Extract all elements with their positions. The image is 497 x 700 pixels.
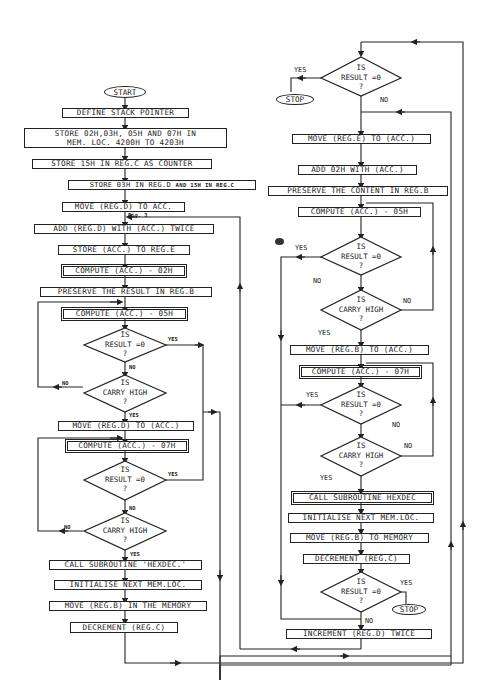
decision-line: RESULT =0 bbox=[331, 400, 391, 410]
step-label: STORE (ACC.) TO REG.E bbox=[73, 245, 175, 255]
no-label: NO bbox=[313, 277, 321, 285]
step-label: MOVE (REG.E) TO (ACC.) bbox=[308, 134, 415, 144]
step-label: MOVE (REG.B) IN THE MEMORY bbox=[65, 601, 192, 611]
step-label: CALL SUBROUTINE 'HEXDEC.' bbox=[65, 560, 187, 570]
no-label: NO bbox=[365, 617, 373, 625]
decision-carry-high-2: IS CARRY HIGH ? bbox=[90, 516, 160, 545]
decision-line: ? bbox=[331, 596, 391, 606]
decision-result-zero-r2: IS RESULT =0 ? bbox=[331, 242, 391, 271]
yes-label: YES bbox=[168, 471, 178, 477]
step-label: MOVE (REG.D) TO ACC. bbox=[75, 202, 172, 212]
step-label-line2: MEM. LOC. 4200H TO 4203H bbox=[67, 138, 184, 147]
step-init-next-mem-r: INITIALISE NEXT MEM.LOC. bbox=[288, 513, 434, 523]
decision-line: RESULT =0 bbox=[331, 587, 391, 597]
step-store-values: STORE 02H,03H, 05H AND 07H IN MEM. LOC. … bbox=[24, 128, 227, 148]
step-compute-02h: COMPUTE (ACC.) - 02H bbox=[63, 266, 185, 276]
decision-line: ? bbox=[95, 349, 155, 359]
step-label: COMPUTE (ACC.) - 05H bbox=[76, 309, 173, 319]
decision-carry-high-r1: IS CARRY HIGH ? bbox=[326, 295, 396, 324]
decision-line: ? bbox=[90, 397, 160, 407]
decision-carry-high-1: IS CARRY HIGH ? bbox=[90, 378, 160, 407]
yes-label: YES bbox=[306, 391, 318, 399]
step-label: MOVE (REG.D) TO (ACC.) bbox=[72, 421, 179, 431]
decision-line: RESULT =0 bbox=[95, 475, 155, 485]
step-preserve-content: PRESERVE THE CONTENT IN REG.B bbox=[268, 186, 448, 196]
start-terminal: START bbox=[104, 86, 146, 98]
step-label: COMPUTE (ACC.) - 05H bbox=[311, 207, 408, 217]
step-label: MOVE (REG.B) TO (ACC.) bbox=[306, 345, 413, 355]
step-call-hexdec-r: CALL SUBROUTINE HEXDEC bbox=[293, 493, 432, 503]
step-label: ADD 02H WITH (ACC.) bbox=[311, 165, 404, 175]
yes-label: YES bbox=[320, 474, 332, 482]
step-increment-reg-d: INCREMENT (REG.D) TWICE bbox=[286, 629, 432, 639]
yes-label: YES bbox=[130, 551, 140, 557]
yes-label: YES bbox=[168, 336, 178, 342]
fig-annotation: Fig. 3 bbox=[128, 212, 147, 218]
step-label-handwritten: AND 15H IN REG.C bbox=[176, 180, 235, 190]
step-label: STORE 03H IN REG.D bbox=[90, 180, 171, 190]
decision-line: IS bbox=[90, 516, 160, 526]
decision-line: IS bbox=[331, 577, 391, 587]
decision-line: CARRY HIGH bbox=[326, 451, 396, 461]
decision-line: IS bbox=[331, 63, 391, 73]
step-add-reg-d: ADD (REG.D) WITH (ACC.) TWICE bbox=[34, 224, 214, 234]
decision-line: ? bbox=[331, 409, 391, 419]
decision-line: CARRY HIGH bbox=[326, 305, 396, 315]
step-compute-05h: COMPUTE (ACC.) - 05H bbox=[63, 309, 186, 319]
decision-line: RESULT =0 bbox=[331, 73, 391, 83]
decision-carry-high-r2: IS CARRY HIGH ? bbox=[326, 441, 396, 470]
decision-line: ? bbox=[326, 314, 396, 324]
step-move-reg-d: MOVE (REG.D) TO ACC. bbox=[62, 202, 185, 212]
step-store-reg-d: STORE 03H IN REG.D AND 15H IN REG.C bbox=[68, 180, 256, 190]
step-label: DEFINE STACK POINTER bbox=[77, 108, 174, 118]
decision-line: CARRY HIGH bbox=[90, 526, 160, 536]
stop-terminal-2: STOP bbox=[392, 604, 426, 615]
decision-line: ? bbox=[331, 261, 391, 271]
decision-line: IS bbox=[95, 465, 155, 475]
decision-line: IS bbox=[326, 295, 396, 305]
step-label: COMPUTE (ACC.) - 07H bbox=[78, 441, 175, 451]
decision-result-zero-r3: IS RESULT =0 ? bbox=[331, 390, 391, 419]
step-compute-07h-r: COMPUTE (ACC.) - 07H bbox=[301, 367, 420, 377]
step-label: DECREMENT (REG.C) bbox=[83, 623, 166, 633]
yes-label: YES bbox=[318, 329, 330, 337]
yes-label: YES bbox=[294, 66, 306, 74]
step-label: COMPUTE (ACC.) - 02H bbox=[75, 266, 172, 276]
no-label: NO bbox=[392, 421, 400, 429]
ink-blot bbox=[275, 238, 284, 245]
step-call-hexdec: CALL SUBROUTINE 'HEXDEC.' bbox=[49, 560, 202, 570]
step-move-reg-b-memory: MOVE (REG.B) IN THE MEMORY bbox=[49, 601, 207, 611]
stop-terminal: STOP bbox=[276, 94, 314, 105]
step-move-reg-d-acc: MOVE (REG.D) TO (ACC.) bbox=[58, 421, 194, 431]
step-label: ADD (REG.D) WITH (ACC.) TWICE bbox=[53, 224, 194, 234]
no-label: NO bbox=[129, 364, 136, 370]
step-store-acc-reg-e: STORE (ACC.) TO REG.E bbox=[58, 245, 190, 255]
step-preserve-result: PRESERVE THE RESULT IN REG.B bbox=[40, 287, 212, 297]
step-label-line1: STORE 02H,03H, 05H AND 07H IN bbox=[55, 129, 196, 138]
decision-line: IS bbox=[331, 390, 391, 400]
decision-result-zero-r1: IS RESULT =0 ? bbox=[331, 63, 391, 92]
decision-line: IS bbox=[326, 441, 396, 451]
decision-line: IS bbox=[90, 378, 160, 388]
decision-line: IS bbox=[331, 242, 391, 252]
step-label: COMPUTE (ACC.) - 07H bbox=[312, 367, 409, 377]
step-label: DECREMENT (REG.C) bbox=[315, 554, 398, 564]
yes-label: YES bbox=[129, 412, 139, 418]
no-label: NO bbox=[64, 524, 71, 530]
no-label: NO bbox=[380, 96, 388, 104]
decision-line: RESULT =0 bbox=[331, 252, 391, 262]
step-move-reg-b-acc: MOVE (REG.B) TO (ACC.) bbox=[290, 345, 429, 355]
no-label: NO bbox=[129, 505, 136, 511]
start-label: START bbox=[114, 88, 137, 97]
no-label: NO bbox=[404, 442, 412, 450]
step-compute-07h: COMPUTE (ACC.) - 07H bbox=[67, 441, 187, 451]
step-label: INCREMENT (REG.D) TWICE bbox=[303, 629, 415, 639]
stop-label: STOP bbox=[286, 95, 304, 104]
stop-label: STOP bbox=[400, 605, 418, 614]
step-label: MOVE (REG.B) TO MEMORY bbox=[306, 533, 413, 543]
step-move-reg-e: MOVE (REG.E) TO (ACC.) bbox=[292, 134, 431, 144]
decision-line: CARRY HIGH bbox=[90, 388, 160, 398]
decision-line: RESULT =0 bbox=[95, 340, 155, 350]
decision-line: ? bbox=[90, 535, 160, 545]
step-define-stack-pointer: DEFINE STACK POINTER bbox=[62, 108, 189, 118]
